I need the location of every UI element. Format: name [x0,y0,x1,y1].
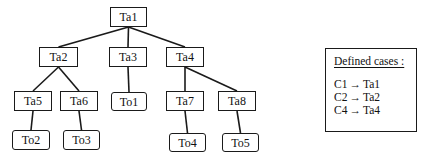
edge-ta7-to4 [185,111,188,133]
legend-case: C2→Ta2 [334,91,416,104]
node-ta3: Ta3 [109,47,147,67]
node-ta7: Ta7 [166,91,204,111]
edge-ta8-to5 [237,111,241,133]
edge-ta1-ta3 [128,27,129,47]
edge-ta5-to2 [31,111,33,130]
edge-ta3-to1 [128,67,129,92]
edge-ta4-ta8 [185,67,237,91]
node-ta4: Ta4 [166,47,204,67]
node-to5: To5 [222,133,259,152]
node-ta6: Ta6 [60,91,98,111]
node-ta8: Ta8 [218,91,256,111]
legend-case: C1→Ta1 [334,78,416,91]
node-ta5: Ta5 [14,91,52,111]
legend-case: C4→Ta4 [334,104,416,117]
defined-cases-legend: Defined cases : C1→Ta1 C2→Ta2 C4→Ta4 [325,48,417,132]
case-label: C1 [334,78,347,90]
node-to4: To4 [169,133,206,152]
node-ta2: Ta2 [39,47,78,67]
case-target: Ta4 [363,104,380,116]
node-to1: To1 [111,92,147,111]
node-ta1: Ta1 [110,7,147,27]
node-to3: To3 [63,130,100,150]
edge-ta1-ta4 [129,27,186,47]
legend-title: Defined cases : [334,55,416,67]
node-to2: To2 [12,130,50,150]
edge-ta2-ta6 [59,67,80,91]
case-target: Ta1 [363,78,380,90]
case-label: C2 [334,91,347,103]
arrow-icon: → [349,78,361,91]
arrow-icon: → [349,104,361,117]
arrow-icon: → [349,91,361,104]
edge-ta2-ta5 [33,67,59,91]
case-label: C4 [334,104,347,116]
edge-ta6-to3 [79,111,82,130]
case-target: Ta2 [363,91,380,103]
edge-ta1-ta2 [59,27,129,47]
